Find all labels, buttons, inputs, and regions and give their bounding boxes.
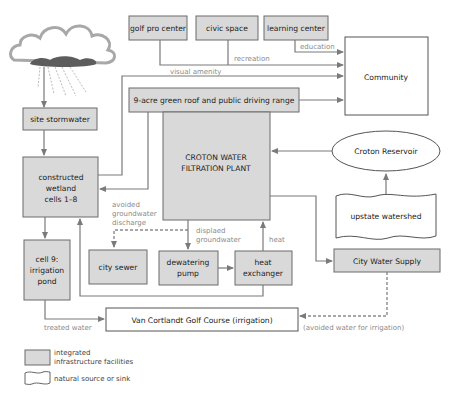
golf-course-label: Van Cortlandt Golf Course (irrigation) xyxy=(131,316,272,325)
croton-reservoir-label: Croton Reservoir xyxy=(354,147,418,156)
croton-filtration-plant-node: CROTON WATER FILTRATION PLANT xyxy=(163,112,270,220)
displaced-groundwater-label-1: displaed xyxy=(196,227,225,235)
plant-label-line1: CROTON WATER xyxy=(185,153,247,162)
green-roof-node: 9-acre green roof and public driving ran… xyxy=(129,88,299,112)
education-label: education xyxy=(300,43,335,51)
city-sewer-label: city sewer xyxy=(99,263,139,272)
irrigation-pond-label-1: cell 9: xyxy=(36,255,59,264)
visual-amenity-label: visual amenity xyxy=(170,68,221,76)
avoided-discharge-label-1: avoided xyxy=(112,201,140,209)
community-node: Community xyxy=(345,37,428,115)
legend-natural-label: natural source or sink xyxy=(54,375,131,383)
avoided-discharge-label-2: groundwater xyxy=(112,210,157,218)
irrigation-pond-label-3: pond xyxy=(37,277,56,286)
civic-space-node: civic space xyxy=(196,16,258,40)
plant-label-line2: FILTRATION PLANT xyxy=(181,164,251,173)
recreation-label: recreation xyxy=(234,55,270,63)
croton-reservoir-node: Croton Reservoir xyxy=(332,131,440,171)
legend-facility-label-1: integrated xyxy=(54,349,91,357)
avoided-discharge-label-3: discharge xyxy=(112,219,146,227)
heat-exchanger-label-2: exchanger xyxy=(243,269,284,278)
site-stormwater-label: site stormwater xyxy=(30,115,91,124)
constructed-wetland-node: constructed wetland cells 1–8 xyxy=(23,157,98,217)
green-roof-label: 9-acre green roof and public driving ran… xyxy=(134,96,295,105)
dewatering-pump-label-2: pump xyxy=(177,269,199,278)
legend-facility-swatch xyxy=(25,350,50,365)
irrigation-pond-node: cell 9: irrigation pond xyxy=(24,240,70,300)
city-sewer-node: city sewer xyxy=(89,250,147,284)
learning-center-label: learning center xyxy=(267,24,326,33)
city-water-supply-label: City Water Supply xyxy=(353,257,422,266)
golf-pro-center-node: golf pro center xyxy=(129,16,187,40)
civic-space-label: civic space xyxy=(206,24,248,33)
green-roof-to-wetland-flow xyxy=(100,112,148,189)
displaced-groundwater-label-2: groundwater xyxy=(196,236,241,244)
heat-label: heat xyxy=(269,236,285,244)
treated-water-flow xyxy=(45,300,104,319)
wetland-label-line1: constructed xyxy=(38,173,83,182)
learning-center-node: learning center xyxy=(264,16,328,40)
legend-facility-label-2: infrastructure facilities xyxy=(54,358,133,366)
dewatering-pump-label-1: dewatering xyxy=(167,258,210,267)
heat-exchanger-label-1: heat xyxy=(254,258,271,267)
wetland-label-line3: cells 1–8 xyxy=(45,195,78,204)
city-water-supply-node: City Water Supply xyxy=(334,249,440,272)
legend: integrated infrastructure facilities nat… xyxy=(25,349,133,384)
avoided-water-flow xyxy=(300,272,387,316)
site-stormwater-node: site stormwater xyxy=(23,108,97,130)
avoided-water-label: (avoided water for irrigation) xyxy=(303,324,404,332)
heat-exchanger-node: heat exchanger xyxy=(235,251,292,285)
golf-course-node: Van Cortlandt Golf Course (irrigation) xyxy=(106,308,298,331)
dewatering-pump-node: dewatering pump xyxy=(159,251,218,285)
upstate-watershed-label: upstate watershed xyxy=(350,212,421,221)
upstate-watershed-node: upstate watershed xyxy=(336,194,436,239)
avoided-discharge-flow xyxy=(114,230,188,247)
community-label: Community xyxy=(364,73,408,82)
wetland-label-line2: wetland xyxy=(46,184,76,193)
rain-cloud-icon xyxy=(11,26,115,107)
diagram-canvas: golf pro center civic space learning cen… xyxy=(0,0,465,399)
golf-pro-center-label: golf pro center xyxy=(130,24,187,33)
irrigation-pond-label-2: irrigation xyxy=(30,266,65,275)
treated-water-label: treated water xyxy=(44,324,92,332)
legend-natural-swatch xyxy=(25,372,50,385)
